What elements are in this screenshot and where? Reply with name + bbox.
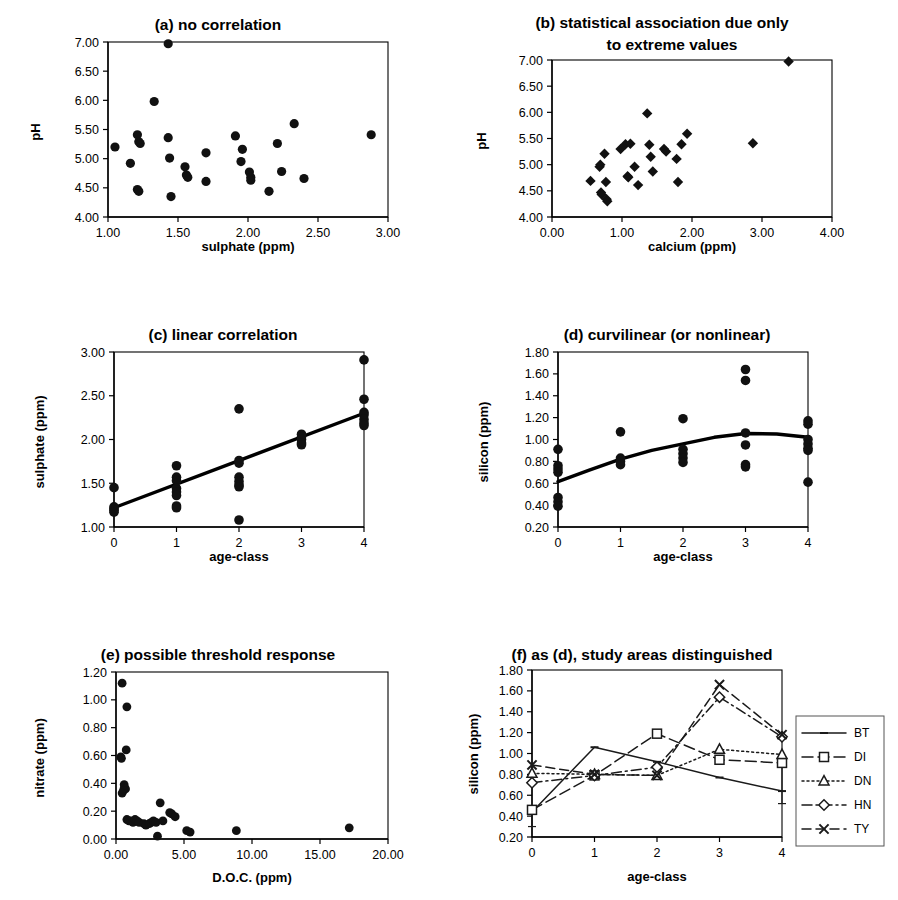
panel-e-x-tick-label: 0.00 (104, 848, 128, 862)
panel-a-frame (108, 42, 388, 217)
panel-c-data-point (109, 507, 119, 517)
panel-e-data-point (118, 679, 127, 688)
panel-a-data-point (290, 119, 299, 128)
panel-f-marker-DI (778, 758, 787, 767)
panel-f-y-tick-label: 1.60 (499, 684, 523, 698)
panel-d-data-point (741, 428, 751, 438)
panel-a-y-tick-label: 6.50 (75, 65, 99, 79)
panel-c-x-tick-label: 1 (173, 536, 180, 550)
panel-b-x-tick-label: 4.00 (820, 226, 844, 240)
panel-d-data-point (553, 501, 563, 511)
panel-b-data-point (599, 148, 609, 158)
panel-a-svg: (a) no correlation 1.001.502.002.503.00 … (18, 8, 418, 258)
panel-f-y-tick-label: 1.80 (499, 664, 523, 678)
panel-b-data-point (644, 140, 654, 150)
panel-a-title: (a) no correlation (155, 16, 282, 33)
panel-d-data-point (616, 427, 626, 437)
panel-e-data-point (159, 817, 168, 826)
panel-b-data-point (783, 56, 793, 66)
panel-b-x-tick-label: 2.00 (680, 226, 704, 240)
panel-b-y-tick-label: 7.00 (519, 54, 543, 68)
panel-e-plot-area: 0.005.0010.0015.0020.00 0.000.200.400.60… (83, 666, 404, 863)
panel-f-marker-HN (527, 778, 537, 788)
panel-c-y-tick-label: 2.50 (81, 389, 105, 403)
panel-e-x-tick-label: 10.00 (236, 848, 267, 862)
panel-f-marker-DN (715, 744, 725, 753)
panel-d-y-tick-label: 1.40 (525, 389, 549, 403)
panel-b-data-point (601, 177, 611, 187)
panel-d-y-tick-label: 0.80 (525, 455, 549, 469)
panel-c-y-tick-label: 3.00 (81, 346, 105, 360)
panel-c-y-axis: 1.001.502.002.503.00 (81, 346, 114, 535)
panel-e-y-tick-label: 0.80 (83, 721, 107, 735)
panel-e-y-axis: 0.000.200.400.600.801.001.20 (83, 666, 116, 847)
panel-a-data-point (164, 39, 173, 48)
panel-c-data-point (172, 503, 182, 513)
panel-b-data-point (648, 166, 658, 176)
panel-d-frame (558, 352, 808, 527)
panel-f-y-axis-title: silicon (ppm) (466, 714, 481, 795)
panel-d-data-point (741, 462, 751, 472)
panel-f-legend[interactable]: BTDIDNHNTY (796, 716, 884, 846)
panel-f-legend-label-BT: BT (854, 726, 870, 740)
panel-f-x-tick-label: 3 (716, 846, 723, 860)
panel-f-y-tick-label: 1.20 (499, 726, 523, 740)
panel-b-data-point (629, 162, 639, 172)
panel-b-y-tick-label: 4.50 (519, 184, 543, 198)
panel-c-x-axis-title: age-class (209, 549, 268, 564)
panel-a-data-point (231, 131, 240, 140)
panel-c-x-tick-label: 4 (361, 536, 368, 550)
panel-b-data-point (642, 108, 652, 118)
panel-f-x-tick-label: 1 (591, 846, 598, 860)
panel-c-title: (c) linear correlation (148, 326, 297, 343)
panel-a-x-axis: 1.001.502.002.503.00 (96, 217, 400, 240)
panel-a-data-point (264, 187, 273, 196)
panel-c-x-axis: 01234 (111, 527, 368, 550)
panel-b-x-tick-label: 1.00 (610, 226, 634, 240)
panel-b-extreme-values: (b) statistical association due only to … (462, 8, 882, 258)
panel-b-data-point (673, 177, 683, 187)
panel-b-scatter-points (585, 56, 794, 206)
panel-f-y-tick-label: 1.00 (499, 747, 523, 761)
panel-f-marker-TY (715, 680, 724, 689)
panel-d-data-point (803, 419, 813, 429)
panel-d-x-axis: 01234 (555, 527, 812, 550)
panel-f-y-tick-label: 0.20 (499, 831, 523, 845)
panel-d-svg: (d) curvilinear (or nonlinear) 01234 0.2… (462, 318, 882, 568)
panel-c-plot-area: 01234 1.001.502.002.503.00 (81, 346, 369, 551)
panel-c-data-point (297, 440, 307, 450)
panel-d-data-point (678, 414, 688, 424)
panel-e-data-point (153, 832, 162, 841)
panel-f-x-axis: 01234 (529, 837, 786, 860)
panel-d-data-point (803, 477, 813, 487)
panel-c-data-point (109, 483, 119, 493)
panel-e-data-point (156, 798, 165, 807)
panel-e-x-tick-label: 20.00 (372, 848, 403, 862)
panel-a-y-tick-label: 4.00 (75, 211, 99, 225)
panel-e-x-tick-label: 5.00 (172, 848, 196, 862)
panel-c-linear-correlation: (c) linear correlation 01234 1.001.502.0… (18, 318, 418, 568)
panel-a-data-point (238, 145, 247, 154)
panel-b-y-tick-label: 4.00 (519, 211, 543, 225)
panel-d-y-tick-label: 0.40 (525, 499, 549, 513)
panel-e-svg: (e) possible threshold response 0.005.00… (18, 638, 418, 893)
panel-b-title-line2: to extreme values (607, 36, 738, 53)
panel-b-data-point (585, 176, 595, 186)
panel-d-data-point (741, 376, 751, 386)
panel-c-y-axis-title: sulphate (ppm) (32, 395, 47, 488)
panel-e-frame (116, 672, 388, 839)
panel-c-y-tick-label: 1.00 (81, 521, 105, 535)
panel-d-data-point (741, 365, 751, 375)
panel-f-study-areas: (f) as (d), study areas distinguished 01… (462, 638, 892, 893)
panel-d-y-tick-label: 1.60 (525, 367, 549, 381)
panel-f-legend-marker-DI (820, 753, 829, 762)
panel-c-x-tick-label: 2 (236, 536, 243, 550)
panel-e-y-tick-label: 1.00 (83, 693, 107, 707)
panel-b-x-axis: 0.001.002.003.004.00 (540, 217, 844, 240)
panel-a-data-point (164, 133, 173, 142)
panel-c-data-point (172, 491, 182, 501)
panel-b-title-line1: (b) statistical association due only (535, 14, 789, 31)
panel-a-no-correlation: (a) no correlation 1.001.502.002.503.00 … (18, 8, 418, 258)
panel-e-x-tick-label: 15.00 (304, 848, 335, 862)
panel-b-y-tick-label: 6.00 (519, 106, 543, 120)
